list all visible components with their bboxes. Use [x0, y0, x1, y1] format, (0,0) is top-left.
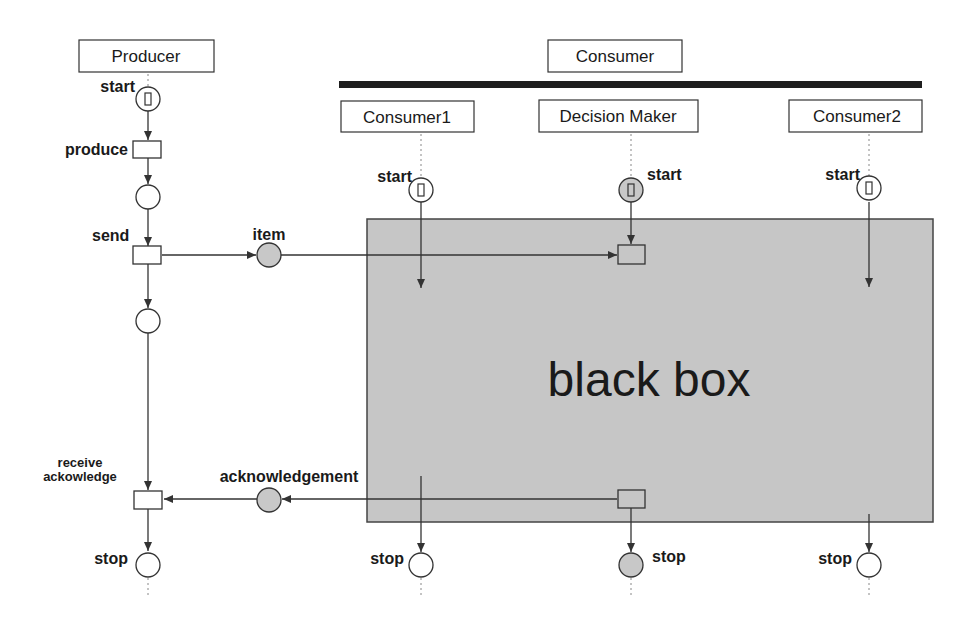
decision-maker-ack-transition[interactable] — [618, 490, 645, 508]
decision-maker-header: Decision Maker — [539, 100, 698, 132]
receive-label-line1: receive — [58, 455, 103, 470]
black-box-label: black box — [548, 353, 751, 406]
receive-label-line2: ackowledge — [43, 469, 117, 484]
producer-header: Producer — [79, 40, 214, 72]
consumer-group-bar — [339, 81, 922, 88]
consumer2-header: Consumer2 — [789, 100, 922, 132]
petri-net-diagram: black box Producer Consumer Consumer1 De… — [0, 0, 972, 628]
decision-maker-stop-place[interactable] — [619, 553, 643, 577]
consumer2-start-label: start — [825, 166, 860, 183]
item-label: item — [253, 226, 286, 243]
decision-maker-start-place[interactable] — [619, 178, 643, 202]
receive-acknowledge-transition[interactable] — [134, 491, 162, 509]
producer-start-place[interactable] — [136, 87, 160, 111]
send-transition[interactable] — [133, 246, 161, 264]
consumer1-start-place[interactable] — [409, 178, 433, 202]
producer-stop-place[interactable] — [136, 553, 160, 577]
producer-place-3[interactable] — [136, 309, 160, 333]
producer-start-label: start — [100, 78, 135, 95]
produce-label: produce — [65, 141, 128, 158]
consumer2-stop-label: stop — [818, 550, 852, 567]
decision-maker-start-label: start — [647, 166, 682, 183]
svg-text:Consumer: Consumer — [576, 47, 655, 66]
item-place[interactable] — [257, 243, 281, 267]
decision-maker-receive-transition[interactable] — [618, 245, 645, 264]
send-label: send — [92, 227, 129, 244]
consumer1-stop-label: stop — [370, 550, 404, 567]
svg-text:Producer: Producer — [112, 47, 181, 66]
acknowledgement-place[interactable] — [257, 488, 281, 512]
consumer1-header: Consumer1 — [341, 101, 474, 132]
acknowledgement-label: acknowledgement — [220, 468, 359, 485]
consumer1-stop-place[interactable] — [409, 553, 433, 577]
consumer2-stop-place[interactable] — [857, 553, 881, 577]
consumer-header: Consumer — [548, 40, 682, 72]
svg-text:Decision Maker: Decision Maker — [559, 107, 676, 126]
decision-maker-stop-label: stop — [652, 548, 686, 565]
producer-stop-label: stop — [94, 550, 128, 567]
produce-transition[interactable] — [133, 141, 161, 158]
svg-text:Consumer2: Consumer2 — [813, 107, 901, 126]
svg-text:Consumer1: Consumer1 — [363, 108, 451, 127]
producer-place-2[interactable] — [136, 185, 160, 209]
consumer1-start-label: start — [377, 168, 412, 185]
consumer2-start-place[interactable] — [857, 176, 881, 200]
